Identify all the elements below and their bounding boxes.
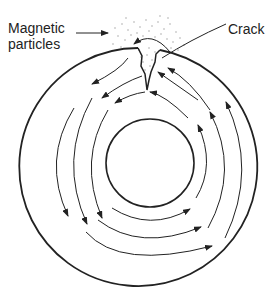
magnetic-particles [112, 15, 184, 70]
outer-circle [19, 48, 257, 286]
magnetic-flux-diagram [0, 0, 277, 292]
inner-circle [106, 119, 194, 207]
crack [138, 48, 160, 90]
flux-lines [56, 58, 241, 255]
